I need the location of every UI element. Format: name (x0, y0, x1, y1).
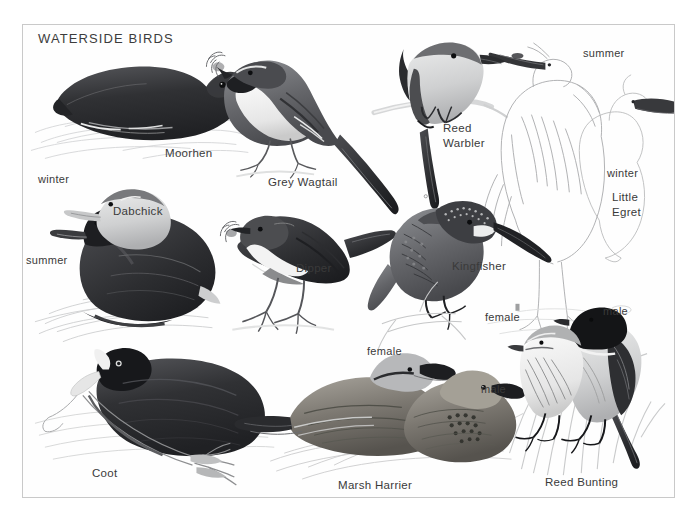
label-reed-bunting: Reed Bunting (545, 475, 618, 489)
coot-illustration (35, 348, 274, 485)
page-title: WATERSIDE BIRDS (38, 31, 174, 46)
label-little-egret-line2: Egret (612, 205, 641, 219)
label-marsh-harrier: Marsh Harrier (338, 478, 412, 492)
label-bunting-female: female (485, 311, 520, 325)
grey-wagtail-illustration (206, 52, 398, 214)
label-reed-warbler-line2: Warbler (443, 136, 485, 150)
label-coot: Coot (92, 466, 118, 480)
label-dipper: Dipper (296, 261, 332, 275)
label-egret-winter: winter (607, 167, 638, 181)
label-grey-wagtail: Grey Wagtail (268, 175, 338, 189)
bird-illustrations (23, 25, 674, 497)
little-egret-illustration (482, 43, 674, 336)
illustration-plate: WATERSIDE BIRDS Moorhen Grey Wagtail Ree… (0, 0, 696, 523)
label-harrier-male: male (481, 383, 506, 397)
label-reed-warbler-line1: Reed (443, 121, 472, 135)
label-kingfisher: Kingfisher (452, 259, 506, 273)
label-harrier-female: female (367, 345, 402, 359)
label-dabchick-summer: summer (26, 254, 68, 268)
label-little-egret-line1: Little (612, 190, 638, 204)
marsh-harrier-illustration (234, 353, 525, 479)
label-bunting-male: male (603, 305, 628, 319)
label-moorhen: Moorhen (165, 146, 213, 160)
label-dabchick: Dabchick (113, 204, 163, 218)
reed-bunting-illustration (508, 308, 666, 476)
label-egret-summer: summer (583, 47, 625, 61)
label-dabchick-winter: winter (38, 173, 69, 187)
plate-frame (22, 24, 675, 498)
reed-warbler-illustration (374, 43, 508, 209)
